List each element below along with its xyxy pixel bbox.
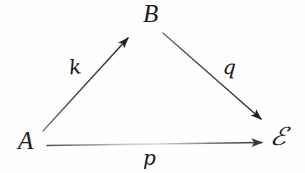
node-label-b: B <box>143 1 159 26</box>
node-label-a: A <box>18 128 34 153</box>
edge-label-q: q <box>222 57 236 78</box>
arrow-b-to-x <box>163 33 261 119</box>
edge-label-p: p <box>143 148 156 168</box>
diagram-canvas: A B ℰ k q p <box>0 0 305 173</box>
edge-label-k: k <box>68 56 82 77</box>
arrow-a-to-b <box>43 38 128 131</box>
